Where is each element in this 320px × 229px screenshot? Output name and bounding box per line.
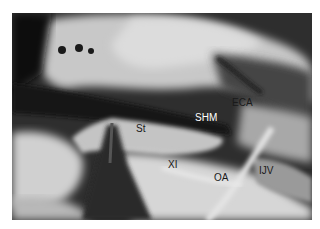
label-eca: ECA	[232, 98, 253, 108]
anatomical-photo: ECA SHM St XI OA IJV	[12, 13, 312, 220]
label-xi: XI	[168, 160, 177, 170]
label-shm: SHM	[195, 113, 217, 123]
label-st: St	[136, 124, 145, 134]
label-oa: OA	[214, 173, 228, 183]
label-ijv: IJV	[259, 166, 273, 176]
photo-illustration	[12, 13, 312, 220]
